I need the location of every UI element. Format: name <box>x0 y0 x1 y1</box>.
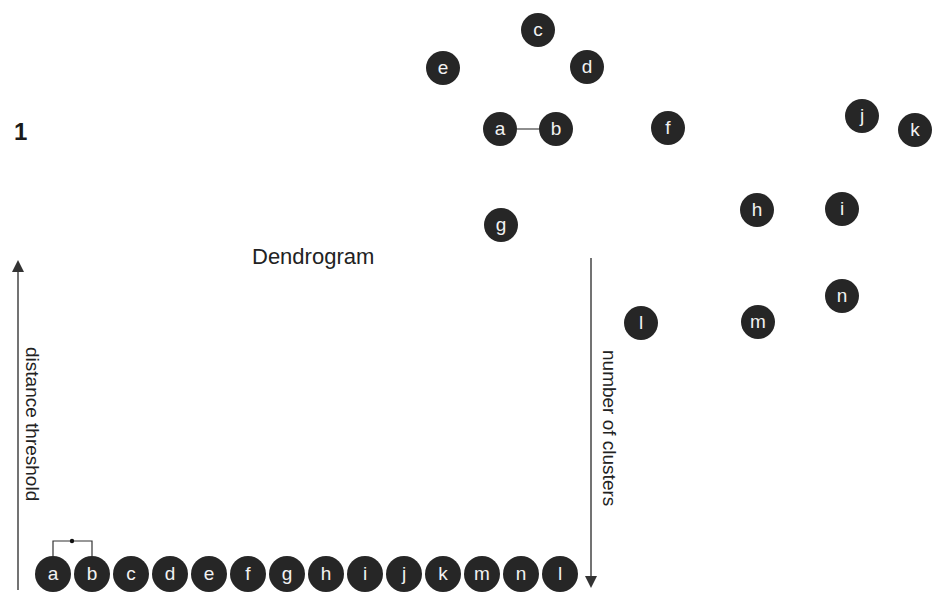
left-axis-label: distance threshold <box>21 347 43 501</box>
scatter-node-m: m <box>741 305 775 339</box>
clusters-axis-arrowhead <box>585 576 597 588</box>
leaf-node-b: b <box>74 556 110 592</box>
scatter-node-f: f <box>651 111 685 145</box>
leaf-node-j: j <box>386 556 422 592</box>
leaf-node-d: d <box>152 556 188 592</box>
scatter-node-j: j <box>845 99 879 133</box>
scatter-node-l: l <box>624 306 658 340</box>
leaf-node-n: n <box>503 556 539 592</box>
leaf-node-h: h <box>308 556 344 592</box>
scatter-node-c: c <box>521 13 555 47</box>
leaf-node-e: e <box>191 556 227 592</box>
scatter-node-h: h <box>740 193 774 227</box>
merge-point-a-b <box>70 539 74 543</box>
distance-axis-arrowhead <box>12 260 24 272</box>
scatter-node-i: i <box>825 192 859 226</box>
scatter-node-g: g <box>484 208 518 242</box>
leaf-node-a: a <box>35 556 71 592</box>
scatter-node-e: e <box>426 51 460 85</box>
scatter-node-a: a <box>483 112 517 146</box>
leaf-node-f: f <box>230 556 266 592</box>
leaf-node-k: k <box>425 556 461 592</box>
scatter-node-n: n <box>825 279 859 313</box>
scatter-node-b: b <box>539 112 573 146</box>
diagram-lines <box>0 0 937 615</box>
leaf-node-i: i <box>347 556 383 592</box>
merge-a-b <box>53 541 92 556</box>
leaf-node-g: g <box>269 556 305 592</box>
leaf-node-c: c <box>113 556 149 592</box>
scatter-node-d: d <box>570 50 604 84</box>
scatter-node-k: k <box>898 113 932 147</box>
leaf-node-l: l <box>542 556 578 592</box>
right-axis-label: number of clusters <box>598 350 620 506</box>
leaf-node-m: m <box>464 556 500 592</box>
